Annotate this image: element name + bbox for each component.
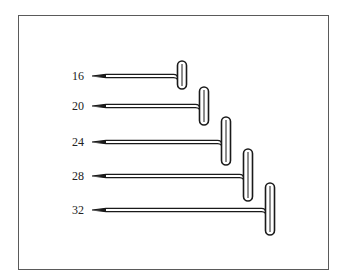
pins-illustration <box>0 0 347 280</box>
pin-20 <box>92 87 209 125</box>
pin-24 <box>92 117 231 165</box>
pin-16 <box>92 61 187 89</box>
